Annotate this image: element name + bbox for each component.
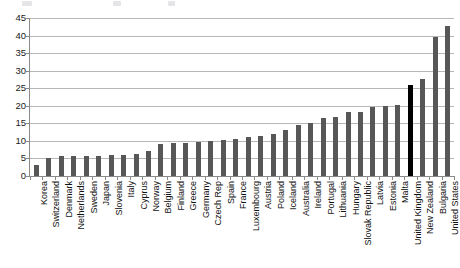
y-tick-mark-15 bbox=[26, 123, 29, 124]
bar[interactable] bbox=[420, 79, 425, 176]
x-axis-category-label-text: Luxembourg bbox=[252, 181, 261, 231]
x-axis-category-label-text: Switzerland bbox=[52, 181, 61, 228]
bar[interactable] bbox=[333, 117, 338, 176]
bar[interactable] bbox=[408, 85, 413, 176]
x-tick-mark bbox=[230, 176, 231, 180]
x-tick-mark bbox=[329, 176, 330, 180]
x-tick-mark bbox=[304, 176, 305, 180]
x-axis-category-label-text: Greece bbox=[189, 181, 198, 211]
y-tick-label-30: 30 bbox=[4, 66, 26, 76]
bar[interactable] bbox=[233, 139, 238, 176]
x-axis-category-label-text: France bbox=[239, 181, 248, 209]
bar[interactable] bbox=[171, 143, 176, 176]
bar[interactable] bbox=[96, 156, 101, 176]
x-axis-category-label-text: Slovak Republic bbox=[364, 181, 373, 246]
bar[interactable] bbox=[283, 130, 288, 176]
x-tick-mark bbox=[117, 176, 118, 180]
bar[interactable] bbox=[370, 107, 375, 176]
x-axis-category-label: Norway bbox=[152, 181, 161, 212]
bar[interactable] bbox=[383, 106, 388, 176]
bar[interactable] bbox=[346, 112, 351, 176]
x-axis-category-label-text: Belgium bbox=[164, 181, 173, 214]
x-axis-category-label: Belgium bbox=[164, 181, 173, 214]
bar[interactable] bbox=[296, 125, 301, 176]
bar[interactable] bbox=[221, 140, 226, 177]
x-axis-category-label: United States bbox=[451, 181, 460, 235]
bar[interactable] bbox=[358, 112, 363, 176]
x-axis-category-label-text: Cyprus bbox=[140, 181, 149, 210]
x-axis-category-label: France bbox=[239, 181, 248, 209]
x-tick-mark bbox=[217, 176, 218, 180]
y-tick-label-40: 40 bbox=[4, 31, 26, 41]
bar[interactable] bbox=[433, 37, 438, 176]
x-tick-mark bbox=[205, 176, 206, 180]
y-tick-mark-45 bbox=[26, 18, 29, 19]
bar[interactable] bbox=[134, 154, 139, 176]
bar[interactable] bbox=[34, 165, 39, 176]
y-tick-label-45: 45 bbox=[4, 13, 26, 23]
x-axis-category-label-text: Denmark bbox=[65, 181, 74, 218]
x-axis-category-label-text: Slovenia bbox=[115, 181, 124, 216]
x-tick-mark bbox=[254, 176, 255, 180]
y-tick-label-10: 10 bbox=[4, 136, 26, 146]
bar[interactable] bbox=[196, 142, 201, 176]
x-axis-category-label: Slovenia bbox=[115, 181, 124, 216]
x-axis-ticks bbox=[30, 176, 454, 180]
x-axis-category-label-text: Estonia bbox=[389, 181, 398, 211]
x-axis-category-label-text: New Zealand bbox=[426, 181, 435, 234]
bar[interactable] bbox=[71, 156, 76, 176]
bar[interactable] bbox=[308, 123, 313, 176]
x-axis-category-label-text: Austria bbox=[264, 181, 273, 209]
x-axis-category-label-text: Sweden bbox=[90, 181, 99, 214]
bar[interactable] bbox=[59, 156, 64, 176]
bar[interactable] bbox=[84, 156, 89, 176]
x-tick-mark bbox=[279, 176, 280, 180]
x-axis-category-label-text: Portugal bbox=[327, 181, 336, 215]
bar[interactable] bbox=[183, 143, 188, 176]
top-cutoff-artifact-2 bbox=[113, 1, 121, 6]
x-axis-category-label-text: Netherlands bbox=[77, 181, 86, 230]
x-axis-category-label: Italy bbox=[127, 181, 136, 198]
x-tick-mark bbox=[42, 176, 43, 180]
y-tick-mark-35 bbox=[26, 53, 29, 54]
x-tick-mark bbox=[192, 176, 193, 180]
x-axis-category-label-text: United States bbox=[451, 181, 460, 235]
x-tick-mark bbox=[180, 176, 181, 180]
bar[interactable] bbox=[258, 136, 263, 176]
x-axis-category-label-text: Bulgaria bbox=[439, 181, 448, 214]
x-tick-mark bbox=[92, 176, 93, 180]
y-tick-mark-5 bbox=[26, 158, 29, 159]
bar[interactable] bbox=[271, 134, 276, 176]
x-axis-category-label: Switzerland bbox=[52, 181, 61, 228]
y-tick-mark-20 bbox=[26, 106, 29, 107]
x-axis-category-label: United Kingdom bbox=[414, 181, 423, 245]
bar[interactable] bbox=[321, 118, 326, 176]
bar[interactable] bbox=[46, 158, 51, 176]
bar[interactable] bbox=[146, 151, 151, 176]
x-tick-mark bbox=[392, 176, 393, 180]
x-axis-category-label-text: Poland bbox=[277, 181, 286, 209]
bar[interactable] bbox=[158, 144, 163, 176]
x-tick-mark bbox=[55, 176, 56, 180]
x-axis-category-label-text: Japan bbox=[102, 181, 111, 206]
x-axis-category-label: Portugal bbox=[327, 181, 336, 215]
top-cutoff-artifact-3 bbox=[168, 1, 175, 6]
bar[interactable] bbox=[121, 155, 126, 176]
x-axis-category-label: Latvia bbox=[376, 181, 385, 205]
bar[interactable] bbox=[395, 105, 400, 176]
bars-container bbox=[30, 18, 454, 176]
x-tick-mark bbox=[367, 176, 368, 180]
x-tick-mark bbox=[454, 176, 455, 180]
x-axis-category-label: Finland bbox=[177, 181, 186, 211]
bar[interactable] bbox=[246, 137, 251, 176]
y-tick-mark-0 bbox=[26, 176, 29, 177]
bar[interactable] bbox=[109, 155, 114, 176]
bar[interactable] bbox=[445, 26, 450, 176]
bar[interactable] bbox=[208, 141, 213, 176]
x-axis-category-label: Luxembourg bbox=[252, 181, 261, 231]
y-tick-mark-25 bbox=[26, 88, 29, 89]
x-axis-category-label: Lithuania bbox=[339, 181, 348, 218]
x-tick-mark bbox=[442, 176, 443, 180]
x-axis-category-label: Japan bbox=[102, 181, 111, 206]
